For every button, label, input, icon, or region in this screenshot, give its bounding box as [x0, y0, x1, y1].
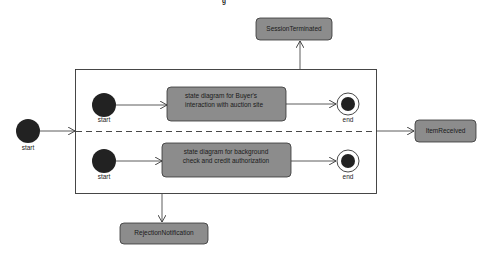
state-diagram-canvas: g SessionTerminated start start state di… [0, 0, 491, 255]
state-label-line-2: check and credit authorization [183, 157, 270, 164]
region-2: start state diagram for background check… [92, 143, 359, 180]
outer-start-node: start [16, 119, 40, 151]
state-label: SessionTerminated [266, 25, 322, 32]
title-fragment: g [222, 0, 226, 5]
state-label-line-2: interaction with auction site [185, 101, 263, 108]
initial-pseudostate-icon [92, 93, 116, 117]
state-label: RejectionNotification [134, 229, 194, 237]
state-label: ItemReceived [426, 127, 466, 134]
region-1-start-label: start [98, 116, 111, 123]
state-item-received[interactable]: ItemReceived [415, 120, 476, 142]
state-session-terminated[interactable]: SessionTerminated [256, 18, 332, 40]
initial-pseudostate-icon [92, 149, 116, 173]
final-state-icon [337, 150, 359, 172]
region-1-end-label: end [343, 116, 354, 123]
initial-pseudostate-icon [16, 119, 40, 143]
region-2-end-label: end [343, 173, 354, 180]
state-label-line-1: state diagram for Buyer's [185, 92, 258, 100]
state-background-check[interactable]: state diagram for background check and c… [162, 143, 291, 177]
final-state-icon [337, 93, 359, 115]
state-rejection-notification[interactable]: RejectionNotification [120, 223, 208, 244]
state-buyer-interaction[interactable]: state diagram for Buyer's interaction wi… [167, 87, 286, 121]
region-2-start-label: start [98, 173, 111, 180]
region-1: start state diagram for Buyer's interact… [92, 87, 359, 123]
state-label-line-1: state diagram for background [184, 148, 269, 156]
outer-start-label: start [22, 144, 35, 151]
